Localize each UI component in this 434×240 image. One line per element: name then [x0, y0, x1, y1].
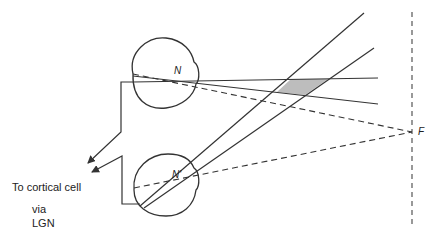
lower-eye-output-wire [92, 156, 140, 204]
upper-eye-output-wire [88, 82, 133, 163]
nodal-point-n-prime-label: N' [172, 170, 181, 180]
diagram-canvas [0, 0, 434, 240]
lgn-label: LGN [32, 218, 55, 229]
cortical-cell-label: To cortical cell [12, 182, 81, 193]
fixation-point-label: F [418, 127, 424, 137]
upper-eye-outline [132, 38, 199, 108]
nodal-point-n-label: N [174, 66, 181, 76]
via-label: via [32, 204, 46, 215]
